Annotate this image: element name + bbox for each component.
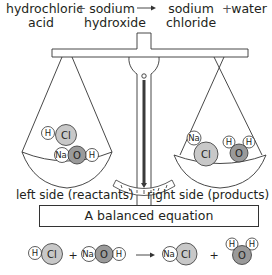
svg-text:H: H (116, 249, 122, 259)
scale-beam (52, 33, 248, 57)
caption-box: A balanced equation (39, 205, 259, 227)
svg-text:O: O (235, 148, 243, 159)
svg-text:Na: Na (188, 133, 200, 143)
arrow-icon (137, 6, 156, 11)
balance-scale: H Cl Na O H Na Cl H H O H Cl + Na O H (0, 0, 272, 275)
svg-text:Cl: Cl (47, 249, 57, 260)
svg-text:H: H (249, 239, 255, 249)
svg-text:H: H (226, 137, 232, 147)
plus-sign: + (209, 249, 218, 262)
caption-text: A balanced equation (85, 208, 214, 223)
equation-hcl: H Cl (29, 244, 63, 265)
needle-icon (141, 80, 147, 188)
molecule-naoh-left: Na O H (55, 146, 99, 164)
right-side-label: right side (products) (147, 188, 269, 202)
arrow-icon (136, 253, 155, 258)
svg-text:H: H (89, 150, 95, 160)
svg-text:H: H (45, 128, 51, 138)
left-side-label: left side (reactants) (16, 188, 134, 202)
svg-text:Cl: Cl (61, 130, 71, 141)
molecule-h2o-right: H H O (223, 136, 255, 162)
left-pan (22, 57, 112, 188)
svg-text:H: H (32, 248, 38, 258)
equation-naoh: Na O H (82, 245, 126, 263)
molecule-hcl-left: H Cl (42, 125, 77, 146)
equation-h2o: H H O (226, 238, 258, 265)
right-pan (174, 57, 266, 188)
svg-text:Na: Na (163, 249, 175, 259)
plus-sign: + (68, 249, 77, 262)
svg-text:Cl: Cl (181, 249, 191, 260)
svg-text:Na: Na (82, 249, 94, 259)
svg-text:Cl: Cl (201, 149, 211, 160)
svg-text:H: H (229, 239, 235, 249)
svg-text:O: O (73, 150, 81, 161)
svg-text:O: O (238, 250, 246, 261)
svg-text:H: H (246, 137, 252, 147)
svg-text:O: O (100, 249, 108, 260)
equation-nacl: Na Cl (163, 243, 198, 265)
svg-text:Na: Na (55, 150, 67, 160)
